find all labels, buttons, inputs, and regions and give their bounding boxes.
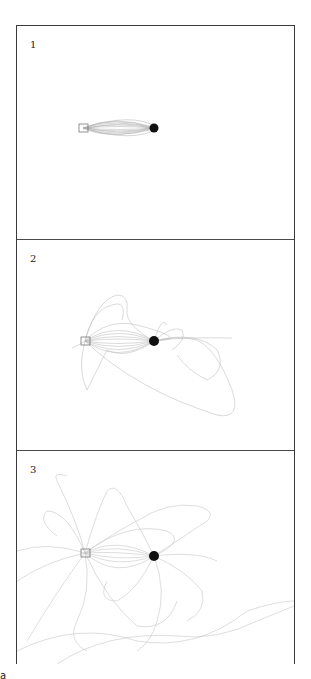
trajectory-plot	[17, 26, 294, 239]
trajectory-plot	[17, 451, 294, 664]
target-dot-icon	[150, 124, 159, 133]
trajectory-plot	[17, 240, 294, 450]
panel-1: 1	[17, 26, 294, 239]
panel-3: 3	[17, 450, 294, 664]
target-dot-icon	[149, 336, 159, 346]
panel-2: 2	[17, 239, 294, 450]
target-dot-icon	[149, 551, 159, 561]
figure-corner-label: a	[0, 670, 6, 679]
figure-frame: 1 2	[16, 25, 295, 664]
